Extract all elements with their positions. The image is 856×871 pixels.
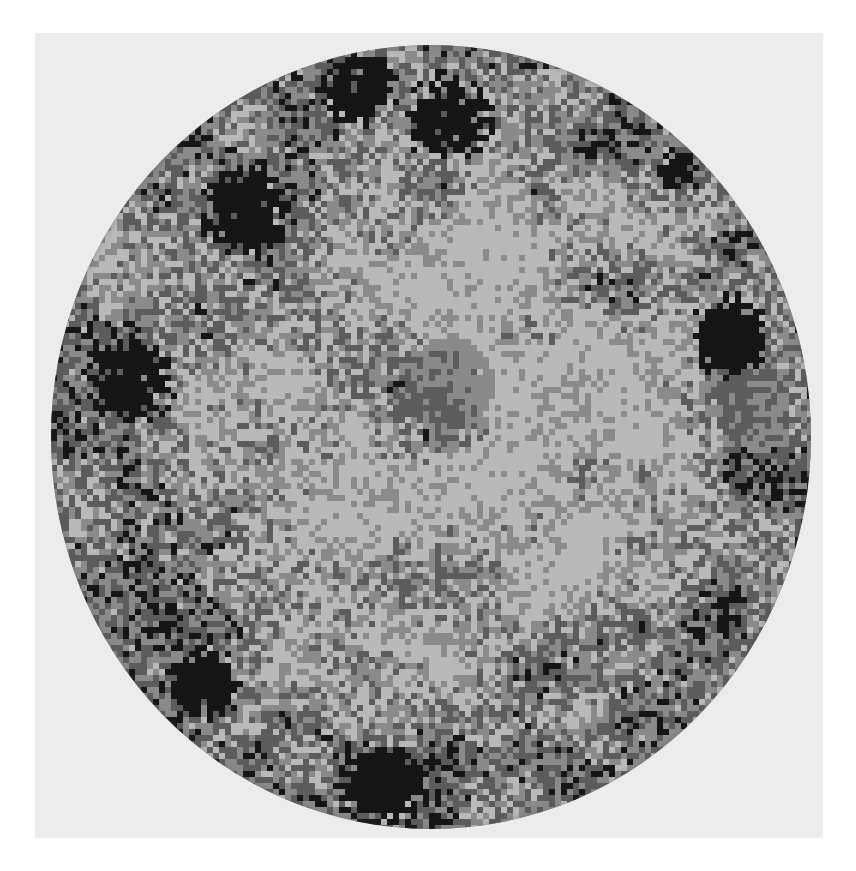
image-canvas (0, 0, 856, 871)
texture-map (51, 45, 811, 829)
circular-texture-disc (51, 45, 811, 829)
